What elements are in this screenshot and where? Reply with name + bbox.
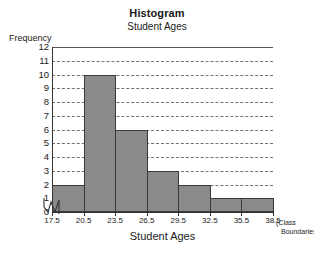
histogram-bar (178, 185, 211, 213)
y-tick-label: 3 (3, 166, 49, 176)
histogram-bar (115, 130, 148, 213)
gridline (52, 61, 273, 62)
x-tick-label: 29.5 (163, 216, 193, 226)
class-boundaries-note: (Class Boundaries) (276, 218, 314, 236)
x-tick-label: 32.5 (195, 216, 225, 226)
x-axis-title: Student Ages (52, 230, 273, 243)
y-tick-label: 5 (3, 138, 49, 148)
y-tick-label: 9 (3, 83, 49, 93)
y-tick-label: 2 (3, 180, 49, 190)
x-tick-label: 20.5 (69, 216, 99, 226)
y-tick-label: 7 (3, 111, 49, 121)
x-tick-label: 35.5 (226, 216, 256, 226)
y-tick-label: 8 (3, 97, 49, 107)
axis-break-icon (43, 196, 65, 214)
histogram-bar (241, 198, 274, 212)
y-axis-line (52, 47, 53, 212)
histogram-bar (147, 171, 180, 212)
class-boundaries-note-line2: Boundaries) (276, 227, 314, 236)
x-tick-label: 23.5 (100, 216, 130, 226)
y-tick-label: 4 (3, 152, 49, 162)
plot-area (52, 47, 273, 212)
plot-top-border (52, 47, 273, 48)
x-tick-label: 17.5 (37, 216, 67, 226)
y-tick-label: 11 (3, 56, 49, 66)
y-tick-label: 10 (3, 70, 49, 80)
class-boundaries-note-line1: (Class (276, 219, 296, 226)
histogram-chart: Histogram Student Ages Frequency 1211109… (0, 0, 314, 257)
histogram-bar (210, 198, 243, 212)
x-tick-label: 26.5 (132, 216, 162, 226)
histogram-bar (84, 75, 117, 213)
y-tick-label: 12 (3, 42, 49, 52)
y-tick-label: 6 (3, 125, 49, 135)
